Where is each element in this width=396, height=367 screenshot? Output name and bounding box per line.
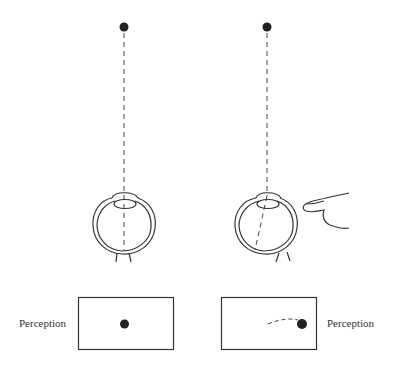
- left-stimulus: [120, 23, 129, 251]
- eye-displacement-diagram: [0, 0, 396, 367]
- left-perception-label: Perception: [19, 317, 66, 329]
- right-stimulus: [255, 23, 272, 251]
- right-perception-label: Perception: [327, 317, 374, 329]
- finger-icon: [303, 193, 349, 228]
- perceived-dot-icon: [297, 319, 307, 329]
- target-dot-icon: [120, 23, 129, 32]
- right-eye-icon: [235, 193, 297, 262]
- right-perception-box: [222, 298, 317, 350]
- left-perception-box: [79, 298, 174, 350]
- left-eye-icon: [93, 193, 155, 262]
- perceived-dot-icon: [120, 320, 129, 329]
- target-dot-icon: [263, 23, 272, 32]
- motion-path: [268, 319, 298, 324]
